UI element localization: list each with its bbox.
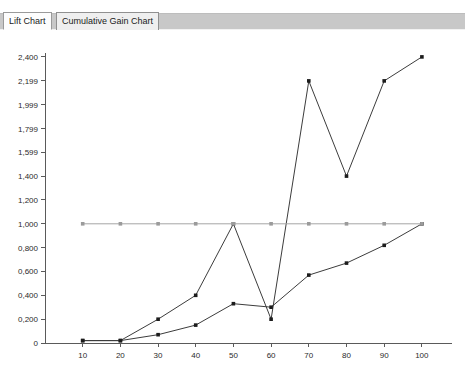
x-axis-tick-label: 30 xyxy=(154,351,163,360)
y-axis-tick-label: 1,000 xyxy=(18,220,39,229)
data-point-marker xyxy=(382,244,386,248)
x-axis-tick-label: 10 xyxy=(78,351,87,360)
data-point-marker xyxy=(269,305,273,309)
x-axis-tick-label: 40 xyxy=(191,351,200,360)
y-axis-tick-label: 1,999 xyxy=(18,101,39,110)
series-line xyxy=(83,57,422,341)
data-point-marker xyxy=(382,79,386,83)
y-axis-tick-label: 0,400 xyxy=(18,291,39,300)
data-point-marker xyxy=(81,339,85,343)
lift-chart-panel: 00,2000,4000,6000,8001,0001,2001,4001,59… xyxy=(0,30,465,389)
data-point-marker xyxy=(307,79,311,83)
x-axis-ticks: 102030405060708090100 xyxy=(78,343,429,360)
x-axis-tick-label: 70 xyxy=(304,351,313,360)
data-point-marker xyxy=(156,317,160,321)
data-point-marker xyxy=(307,222,311,226)
data-point-marker xyxy=(119,339,123,343)
series-model-lift xyxy=(81,55,424,342)
data-point-marker xyxy=(119,222,123,226)
y-axis-tick-label: 1,799 xyxy=(18,125,39,134)
x-axis-tick-label: 80 xyxy=(342,351,351,360)
y-axis-tick-label: 0,600 xyxy=(18,267,39,276)
x-axis-tick-label: 50 xyxy=(229,351,238,360)
data-point-marker xyxy=(269,317,273,321)
data-point-marker xyxy=(156,222,160,226)
y-axis-tick-label: 1,400 xyxy=(18,172,39,181)
data-point-marker xyxy=(307,273,311,277)
data-point-marker xyxy=(194,323,198,327)
tab-lift-chart[interactable]: Lift Chart xyxy=(3,12,52,30)
data-point-marker xyxy=(81,222,85,226)
tab-strip: Lift Chart Cumulative Gain Chart xyxy=(0,0,465,30)
series-line xyxy=(83,224,422,341)
y-axis-tick-label: 2,199 xyxy=(18,77,39,86)
x-axis-tick-label: 100 xyxy=(415,351,429,360)
data-point-marker xyxy=(345,174,349,178)
data-point-marker xyxy=(194,222,198,226)
x-axis-tick-label: 90 xyxy=(380,351,389,360)
data-point-marker xyxy=(345,261,349,265)
data-series-layer xyxy=(81,55,424,342)
data-point-marker xyxy=(420,222,424,226)
tab-cumulative-gain-chart-label: Cumulative Gain Chart xyxy=(62,16,153,26)
tab-lift-chart-label: Lift Chart xyxy=(9,16,46,26)
tab-cumulative-gain-chart[interactable]: Cumulative Gain Chart xyxy=(56,12,159,30)
y-axis-tick-label: 0 xyxy=(34,339,39,348)
x-axis-tick-label: 60 xyxy=(267,351,276,360)
data-point-marker xyxy=(232,302,236,306)
lift-chart-plot: 00,2000,4000,6000,8001,0001,2001,4001,59… xyxy=(0,30,465,389)
data-point-marker xyxy=(269,222,273,226)
data-point-marker xyxy=(382,222,386,226)
series-ideal-model xyxy=(81,222,424,342)
y-axis-tick-label: 1,599 xyxy=(18,148,39,157)
y-axis-tick-label: 0,200 xyxy=(18,315,39,324)
data-point-marker xyxy=(345,222,349,226)
y-axis-tick-label: 2,400 xyxy=(18,53,39,62)
x-axis-tick-label: 20 xyxy=(116,351,125,360)
data-point-marker xyxy=(156,333,160,337)
series-random-guess xyxy=(81,222,424,226)
y-axis-tick-label: 1,200 xyxy=(18,196,39,205)
data-point-marker xyxy=(420,55,424,59)
data-point-marker xyxy=(232,222,236,226)
data-point-marker xyxy=(194,294,198,298)
y-axis-ticks: 00,2000,4000,6000,8001,0001,2001,4001,59… xyxy=(18,53,45,348)
y-axis-tick-label: 0,800 xyxy=(18,244,39,253)
